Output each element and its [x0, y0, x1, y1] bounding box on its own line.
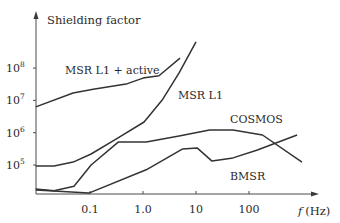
y-tick-base: 10	[6, 159, 20, 172]
x-tick-label: 1.0	[134, 203, 152, 216]
y-tick-label: 107	[6, 92, 25, 107]
series-label-cosmos: COSMOS	[230, 113, 283, 126]
x-ticks: 0.11.010100	[81, 191, 259, 216]
y-tick-exponent: 8	[20, 60, 25, 69]
series-line-msr-l1	[36, 42, 196, 166]
y-tick-label: 105	[6, 157, 25, 172]
series-label-msr-l1: MSR L1	[178, 89, 223, 102]
x-axis-arrow-icon	[311, 192, 319, 197]
x-axis-label: f(Hz)	[297, 204, 330, 218]
y-tick-base: 10	[6, 62, 20, 75]
x-axis-label-variable: f	[297, 204, 304, 218]
y-axis-arrow-icon	[34, 11, 39, 19]
y-ticks: 105106107108	[6, 60, 36, 172]
series-label-msr-l1-active: MSR L1 + active	[65, 64, 159, 77]
y-tick-exponent: 5	[20, 157, 25, 166]
x-tick-label: 0.1	[81, 203, 99, 216]
y-tick-label: 108	[6, 60, 25, 75]
y-axis-label: Shielding factor	[47, 13, 141, 27]
y-tick-label: 106	[6, 125, 25, 140]
y-tick-exponent: 7	[20, 92, 25, 101]
y-tick-base: 10	[6, 94, 20, 107]
x-tick-label: 10	[189, 203, 203, 216]
shielding-factor-chart: Shielding factor 105106107108 0.11.01010…	[0, 0, 340, 223]
y-tick-base: 10	[6, 127, 20, 140]
y-tick-exponent: 6	[20, 125, 25, 134]
x-axis-label-unit: (Hz)	[305, 204, 330, 218]
x-tick-label: 100	[239, 203, 260, 216]
series-label-bmsr: BMSR	[230, 170, 266, 183]
